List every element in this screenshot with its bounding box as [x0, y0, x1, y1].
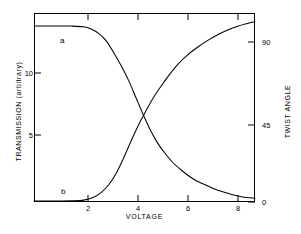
y-right-tick-label-45: 45 [262, 121, 270, 130]
y-right-axis-title: TWIST ANGLE [284, 52, 291, 172]
x-tick-label-2: 2 [86, 204, 90, 213]
x-tick-label-4: 4 [136, 204, 140, 213]
plot-frame [34, 13, 255, 202]
curve-label-b: b [61, 187, 65, 196]
curve-label-a: a [60, 36, 64, 45]
y-left-tick-label-10: 10 [25, 69, 33, 78]
x-tick-label-8: 8 [236, 204, 240, 213]
figure-canvas: 2 4 6 8 10 5 90 45 0 TRANSMISSION (arbit… [0, 0, 301, 234]
x-axis-title: VOLTAGE [34, 213, 255, 220]
y-left-axis-title: TRANSMISSION (arbitrary) [15, 47, 22, 177]
y-right-tick-label-0: 0 [262, 198, 266, 207]
y-left-tick-label-5: 5 [29, 131, 33, 140]
x-tick-label-6: 6 [186, 204, 190, 213]
y-right-tick-label-90: 90 [262, 38, 270, 47]
